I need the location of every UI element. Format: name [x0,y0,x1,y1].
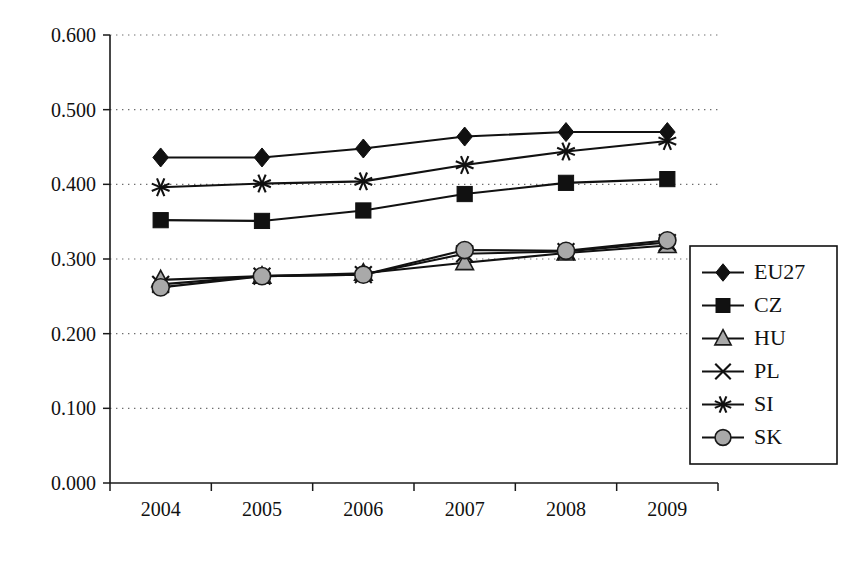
circle-marker-icon [456,241,473,258]
y-tick-label: 0.300 [51,248,96,270]
square-marker-icon [254,213,269,228]
square-marker-icon [153,213,168,228]
line-chart: 0.0000.1000.2000.3000.4000.5000.600 2004… [0,0,861,561]
square-marker-icon [660,172,675,187]
legend-label: EU27 [754,259,805,284]
legend-label: PL [754,358,780,383]
square-marker-icon [716,299,730,313]
chart-canvas: 0.0000.1000.2000.3000.4000.5000.600 2004… [0,0,861,561]
circle-marker-icon [253,268,270,285]
x-tick-label: 2006 [343,498,383,520]
chart-legend: EU27CZHUPLSISK [690,246,837,464]
x-tick-label: 2007 [445,498,485,520]
circle-marker-icon [715,430,731,446]
square-marker-icon [457,186,472,201]
circle-marker-icon [557,242,574,259]
square-marker-icon [356,203,371,218]
circle-marker-icon [355,266,372,283]
circle-marker-icon [659,232,676,249]
x-tick-label: 2009 [647,498,687,520]
y-tick-label: 0.500 [51,99,96,121]
y-tick-label: 0.600 [51,24,96,46]
legend-label: SK [754,424,782,449]
y-tick-label: 0.000 [51,472,96,494]
legend-label: CZ [754,292,782,317]
x-tick-label: 2005 [242,498,282,520]
y-tick-label: 0.100 [51,397,96,419]
y-tick-label: 0.400 [51,173,96,195]
circle-marker-icon [152,279,169,296]
y-tick-label: 0.200 [51,323,96,345]
legend-label: SI [754,391,774,416]
square-marker-icon [558,175,573,190]
x-tick-label: 2008 [546,498,586,520]
x-tick-label: 2004 [141,498,181,520]
legend-label: HU [754,325,786,350]
